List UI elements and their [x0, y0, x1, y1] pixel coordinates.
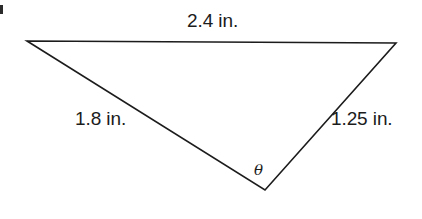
side-label-left: 1.8 in.	[75, 109, 126, 128]
side-label-top: 2.4 in.	[187, 11, 238, 30]
angle-label-theta: θ	[254, 163, 263, 178]
triangle-figure: 2.4 in. 1.8 in. 1.25 in. θ	[0, 0, 422, 219]
side-label-right: 1.25 in.	[331, 109, 393, 128]
page-edge-mark	[0, 5, 3, 14]
